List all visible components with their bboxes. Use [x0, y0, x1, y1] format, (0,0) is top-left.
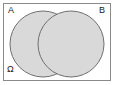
set-a-label: A — [8, 5, 14, 15]
set-b-circle — [38, 11, 104, 77]
universal-set-omega-label: Ω — [7, 64, 14, 74]
set-b-label: B — [99, 5, 105, 15]
venn-circles-graphic — [0, 0, 115, 85]
venn-diagram-figure: A B Ω — [0, 0, 115, 85]
